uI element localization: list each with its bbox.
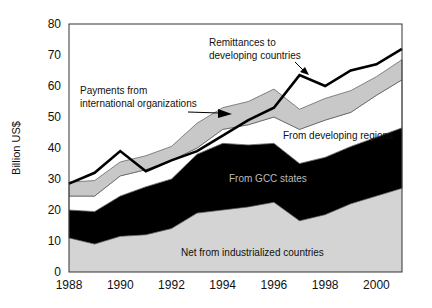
annotation-developing-regions: From developing regions — [283, 130, 393, 141]
y-tick-label: 0 — [54, 265, 61, 279]
annotation-industrialized-countries: Net from industrialized countries — [181, 247, 324, 258]
x-tick-label: 1990 — [107, 278, 134, 292]
stacked-area-chart: 0102030405060708019881990199219941996199… — [0, 0, 432, 308]
y-tick-label: 10 — [48, 234, 62, 248]
annotation-international-organizations: international organizations — [80, 98, 197, 109]
x-tick-label: 1992 — [158, 278, 185, 292]
x-tick-label: 1988 — [56, 278, 83, 292]
annotation-gcc-states: From GCC states — [229, 173, 307, 184]
x-tick-label: 1998 — [312, 278, 339, 292]
annotation-remittances: Remittances to — [209, 37, 276, 48]
y-tick-label: 40 — [48, 141, 62, 155]
y-tick-label: 50 — [48, 110, 62, 124]
x-tick-label: 1994 — [209, 278, 236, 292]
x-tick-label: 1996 — [261, 278, 288, 292]
y-tick-label: 30 — [48, 172, 62, 186]
annotation-remittances: developing countries — [209, 50, 301, 61]
annotation-international-organizations: Payments from — [80, 85, 147, 96]
x-tick-label: 2000 — [363, 278, 390, 292]
y-axis-label: Billion US$ — [10, 121, 22, 175]
y-tick-label: 80 — [48, 17, 62, 31]
y-tick-label: 60 — [48, 79, 62, 93]
y-tick-label: 20 — [48, 203, 62, 217]
y-tick-label: 70 — [48, 48, 62, 62]
